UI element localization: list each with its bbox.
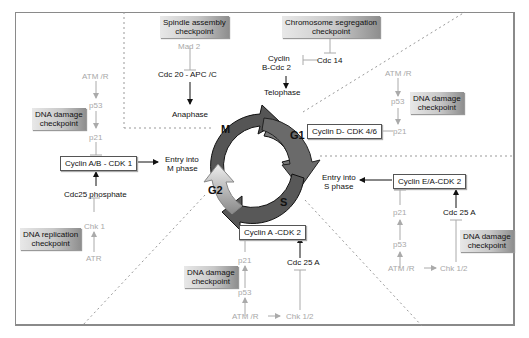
atm-r-g1: ATM /R <box>385 69 412 78</box>
cyclin-a-cdk2-box: Cyclin A -CDK 2 <box>239 225 306 240</box>
spindle-assembly-checkpoint: Spindle assembly checkpoint <box>160 16 229 38</box>
dna-replication-checkpoint: DNA replication checkpoint <box>20 228 81 250</box>
cdc14-label: Cdc 14 <box>317 56 342 65</box>
chk12-sb: Chk 1/2 <box>286 312 314 321</box>
dna-damage-checkpoint-s-bottom: DNA damage checkpoint <box>184 266 238 288</box>
dna-damage-checkpoint-s-right: DNA damage checkpoint <box>460 230 514 252</box>
phase-label-s: S <box>280 196 287 208</box>
entry-s-line1: Entry into <box>322 173 356 182</box>
phase-label-g2: G2 <box>208 184 223 196</box>
p53-left: p53 <box>89 101 102 110</box>
cyclin-d-cdk46-box: Cyclin D- CDK 4/6 <box>307 124 382 139</box>
cyclin-ab-cdk1-box: Cyclin A/B - CDK 1 <box>60 156 137 171</box>
chk1-label: Chk 1 <box>84 222 105 231</box>
atr-label: ATR <box>86 254 101 263</box>
entry-m-line2: M phase <box>167 164 198 173</box>
dna-damage-checkpoint-left: DNA damage checkpoint <box>32 108 86 130</box>
anaphase-label: Anaphase <box>172 110 208 119</box>
cdc25a-sr: Cdc 25 A <box>443 208 475 217</box>
chromosome-segregation-checkpoint: Chromosome segregation checkpoint <box>282 16 380 38</box>
p53-sb: p53 <box>238 288 251 297</box>
cdc25a-sb: Cdc 25 A <box>287 258 319 267</box>
entry-m-line1: Entry into <box>165 155 199 164</box>
atm-r-sr: ATM /R <box>388 264 415 273</box>
p53-g1: p53 <box>391 97 404 106</box>
phase-label-g1: G1 <box>290 129 305 141</box>
p53-sr: p53 <box>393 240 406 249</box>
p21-sr: p21 <box>393 208 406 217</box>
p21-g1: p21 <box>393 127 406 136</box>
atm-r-left: ATM /R <box>82 72 109 81</box>
chk12-sr: Chk 1/2 <box>440 264 468 273</box>
cdc20-apcc-label: Cdc 20 - APC /C <box>158 70 217 79</box>
cyclin-ea-cdk2-box: Cyclin E/A-CDK 2 <box>393 174 466 189</box>
p21-left: p21 <box>89 133 102 142</box>
entry-s-line2: S phase <box>324 182 353 191</box>
dna-damage-checkpoint-g1: DNA damage checkpoint <box>410 92 464 114</box>
mad2-label: Mad 2 <box>178 42 200 51</box>
telophase-label: Telophase <box>264 88 300 97</box>
phase-label-m: M <box>221 123 230 135</box>
p21-sb: p21 <box>238 256 251 265</box>
cyclin-b-cdc2-line2: B-Cdc 2 <box>262 63 291 72</box>
cyclin-b-cdc2-line1: Cyclin <box>268 54 290 63</box>
atm-r-sb: ATM /R <box>232 312 259 321</box>
cdc25-phosphate-label: Cdc25 phosphate <box>64 190 127 199</box>
